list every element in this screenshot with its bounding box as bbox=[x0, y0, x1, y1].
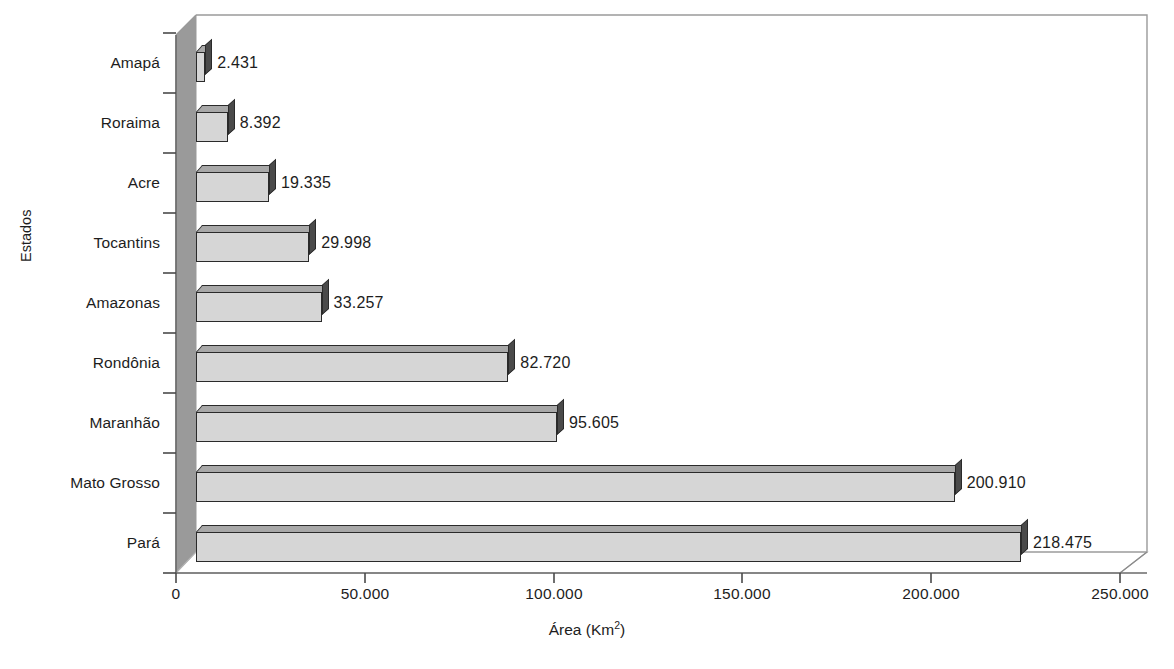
bar-side-face bbox=[228, 98, 235, 134]
bar-chart: Amapá Roraima Acre Tocantins Amazonas Ro… bbox=[0, 0, 1174, 669]
bar-side-face bbox=[557, 398, 564, 434]
bar-front-face bbox=[196, 172, 269, 202]
value-label-acre: 19.335 bbox=[281, 175, 331, 191]
bar-para bbox=[196, 525, 1021, 555]
xtick-label-200000: 200.000 bbox=[902, 586, 959, 602]
category-label-mato-grosso: Mato Grosso bbox=[0, 475, 160, 491]
value-label-rondonia: 82.720 bbox=[520, 355, 570, 371]
bar-mato-grosso bbox=[196, 465, 955, 495]
x-axis-title: Área (Km2) bbox=[0, 622, 1174, 638]
category-label-rondonia: Rondônia bbox=[0, 355, 160, 371]
category-label-maranhao: Maranhão bbox=[0, 415, 160, 431]
bar-top-face bbox=[196, 345, 515, 352]
bar-top-face bbox=[196, 465, 961, 472]
bar-side-face bbox=[955, 458, 962, 494]
bar-rondonia bbox=[196, 345, 508, 375]
y-axis-title: Estados bbox=[19, 210, 34, 262]
bar-front-face bbox=[196, 352, 508, 382]
bar-front-face bbox=[196, 52, 205, 82]
bar-top-face bbox=[196, 225, 316, 232]
bar-top-face bbox=[196, 285, 328, 292]
xtick-label-150000: 150.000 bbox=[713, 586, 770, 602]
bar-front-face bbox=[196, 412, 557, 442]
bar-front-face bbox=[196, 472, 955, 502]
bar-top-face bbox=[196, 405, 563, 412]
value-label-para: 218.475 bbox=[1033, 535, 1092, 551]
value-label-maranhao: 95.605 bbox=[569, 415, 619, 431]
plot-frame bbox=[0, 0, 1174, 669]
category-label-roraima: Roraima bbox=[0, 115, 160, 131]
bar-front-face bbox=[196, 292, 322, 322]
category-label-amazonas: Amazonas bbox=[0, 295, 160, 311]
bar-tocantins bbox=[196, 225, 309, 255]
category-label-para: Pará bbox=[0, 535, 160, 551]
bar-amazonas bbox=[196, 285, 322, 315]
bar-front-face bbox=[196, 532, 1021, 562]
category-label-acre: Acre bbox=[0, 175, 160, 191]
xtick-label-250000: 250.000 bbox=[1091, 586, 1148, 602]
bar-front-face bbox=[196, 112, 228, 142]
bar-side-face bbox=[508, 338, 515, 374]
bar-side-face bbox=[322, 278, 329, 314]
bar-maranhao bbox=[196, 405, 557, 435]
value-label-roraima: 8.392 bbox=[240, 115, 281, 131]
bar-acre bbox=[196, 165, 269, 195]
value-label-tocantins: 29.998 bbox=[321, 235, 371, 251]
category-label-amapa: Amapá bbox=[0, 55, 160, 71]
bar-side-face bbox=[1021, 518, 1028, 554]
x-axis-title-tail: ) bbox=[620, 621, 625, 638]
bar-front-face bbox=[196, 232, 309, 262]
xtick-label-100000: 100.000 bbox=[525, 586, 582, 602]
bar-side-face bbox=[205, 38, 212, 74]
value-label-mato-grosso: 200.910 bbox=[967, 475, 1026, 491]
bar-top-face bbox=[196, 525, 1027, 532]
x-axis-title-main: Área (Km bbox=[549, 621, 614, 638]
bar-side-face bbox=[269, 158, 276, 194]
bar-side-face bbox=[309, 218, 316, 254]
value-label-amazonas: 33.257 bbox=[334, 295, 384, 311]
bar-amapa bbox=[196, 45, 205, 75]
xtick-label-50000: 50.000 bbox=[341, 586, 390, 602]
bar-top-face bbox=[196, 165, 275, 172]
bar-roraima bbox=[196, 105, 228, 135]
xtick-label-0: 0 bbox=[172, 586, 181, 602]
value-label-amapa: 2.431 bbox=[217, 55, 258, 71]
